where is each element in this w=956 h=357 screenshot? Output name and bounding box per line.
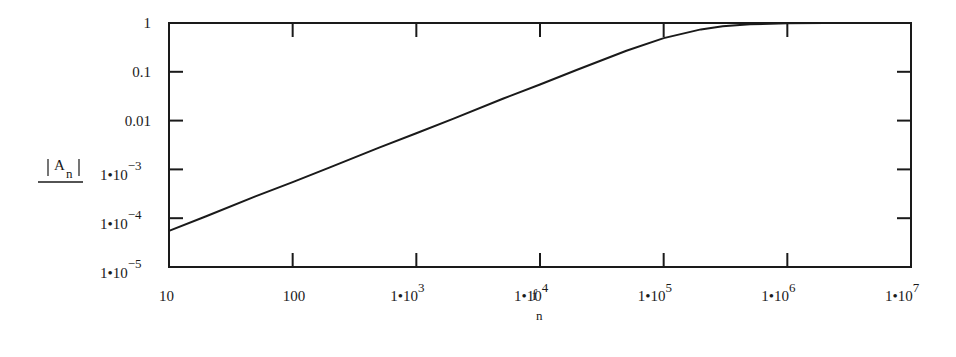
x-tick-label: 10 <box>159 288 174 304</box>
x-axis-ticks <box>293 23 788 267</box>
x-tick-label: 100 <box>283 288 306 304</box>
y-tick-label: 0.01 <box>125 113 151 129</box>
x-axis-tick-labels: 101001•1031•1041•1051•1061•107 <box>159 280 920 304</box>
x-tick-label: 1•103 <box>390 280 424 304</box>
y-axis-label: A n <box>38 157 83 182</box>
log-log-plot: 101001•1031•1041•1051•1061•107 10.10.011… <box>0 0 956 357</box>
y-axis-ticks <box>169 72 911 218</box>
x-axis-symbol: f <box>532 287 537 303</box>
y-axis-tick-labels: 10.10.011•10−31•10−41•10−5 <box>100 15 151 281</box>
x-tick-label: 1•107 <box>885 280 920 304</box>
y-tick-label: 1 <box>144 15 152 31</box>
y-tick-label: 0.1 <box>132 64 151 80</box>
magnitude-curve <box>169 23 911 231</box>
y-tick-label: 1•10−5 <box>100 256 142 281</box>
y-axis-subscript: n <box>66 166 73 181</box>
x-tick-label: 1•105 <box>638 280 672 304</box>
x-axis-subscript: n <box>536 308 543 323</box>
y-tick-label: 1•10−3 <box>100 158 142 183</box>
y-axis-symbol: A <box>54 157 65 173</box>
x-tick-label: 1•106 <box>761 280 796 304</box>
plot-frame <box>169 23 911 267</box>
y-tick-label: 1•10−4 <box>100 207 142 232</box>
